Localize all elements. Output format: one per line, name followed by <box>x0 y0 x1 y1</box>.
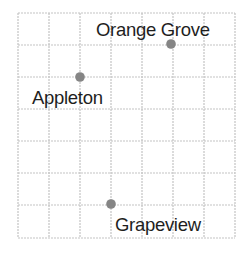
location-dot-icon <box>166 39 176 49</box>
grid-lines <box>18 13 235 238</box>
location-dot-icon <box>75 72 85 82</box>
place-label: Grapeview <box>115 214 202 235</box>
place-orange-grove[interactable]: Orange Grove <box>96 19 210 49</box>
place-label: Appleton <box>32 87 103 108</box>
map-grid: Orange Grove Appleton Grapeview <box>0 0 246 255</box>
location-dot-icon <box>106 199 116 209</box>
place-label: Orange Grove <box>96 19 210 40</box>
